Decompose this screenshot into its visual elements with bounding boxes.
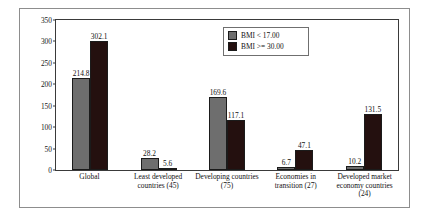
bar-value-label: 47.1 (298, 141, 311, 150)
bar-value-label: 28.2 (143, 149, 156, 158)
bar[interactable]: 169.6 (209, 97, 227, 170)
bar-pair: 214.8302.1 (72, 20, 108, 170)
bar[interactable]: 302.1 (90, 41, 108, 170)
legend-item[interactable]: BMI >= 30.00 (228, 41, 304, 52)
y-tick-label: 250 (26, 58, 56, 67)
legend-color-swatch (228, 31, 237, 40)
x-axis-category-label: Developed marketeconomy countries(24) (320, 173, 409, 199)
y-tick-label: 350 (26, 16, 56, 25)
bar-value-label: 169.6 (210, 88, 227, 97)
bar-value-label: 5.6 (163, 159, 172, 168)
bar[interactable]: 214.8 (72, 78, 90, 170)
bar[interactable]: 28.2 (141, 158, 159, 170)
bar[interactable]: 6.7 (277, 167, 295, 170)
legend-label: BMI >= 30.00 (241, 42, 284, 51)
y-tick-label: 300 (26, 37, 56, 46)
bar-value-label: 302.1 (91, 32, 108, 41)
bar-value-label: 6.7 (282, 158, 291, 167)
bar[interactable]: 10.2 (346, 166, 364, 170)
bar-pair: 10.2131.5 (346, 20, 382, 170)
legend-label: BMI < 17.00 (241, 31, 279, 40)
bar-group: 28.25.6 (124, 20, 192, 170)
bar-group: 214.8302.1 (56, 20, 124, 170)
legend-color-swatch (228, 42, 237, 51)
bar-value-label: 214.8 (73, 69, 90, 78)
legend-item[interactable]: BMI < 17.00 (228, 30, 304, 41)
bar-pair: 28.25.6 (141, 20, 177, 170)
bar-value-label: 131.5 (364, 105, 381, 114)
bar[interactable]: 117.1 (227, 120, 245, 170)
bar-value-label: 117.1 (228, 111, 244, 120)
bar-group: 10.2131.5 (330, 20, 398, 170)
figure-frame: Population affected (millions) 350300250… (19, 8, 410, 208)
chart-screenshot: Population affected (millions) 350300250… (0, 0, 430, 221)
bar[interactable]: 131.5 (364, 114, 382, 170)
y-tick-label: 150 (26, 101, 56, 110)
y-tick-label: 50 (26, 144, 56, 153)
x-label-line: (24) (320, 190, 409, 199)
bar-value-label: 10.2 (348, 157, 361, 166)
x-axis-labels: GlobalLeast developedcountries (45)Devel… (55, 173, 399, 207)
y-tick-label: 100 (26, 123, 56, 132)
bar[interactable]: 5.6 (159, 168, 177, 170)
y-tick-label: 200 (26, 80, 56, 89)
bar[interactable]: 47.1 (295, 150, 313, 170)
chart-legend: BMI < 17.00BMI >= 30.00 (223, 27, 309, 56)
